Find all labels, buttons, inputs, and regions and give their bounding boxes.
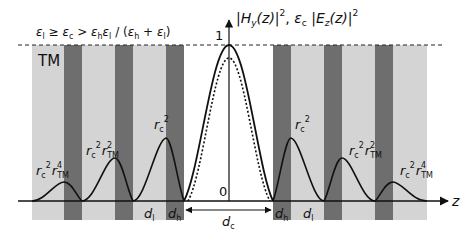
- label-dc: dc: [222, 214, 235, 231]
- right-cladding: [273, 45, 427, 220]
- polarization-label: TM: [37, 52, 60, 70]
- tick-one: 1: [215, 28, 223, 43]
- tick-zero: 0: [219, 184, 227, 199]
- light-layer: [342, 45, 375, 220]
- y-axis-label: |Hy(z)|2, εc |Ez(z)|2: [236, 8, 358, 28]
- peak-label-rc2-rtm4-right: rc2rTM4: [400, 161, 433, 180]
- light-layer: [82, 45, 115, 220]
- dark-layer: [64, 45, 82, 220]
- bragg-fiber-mode-diagram: εl ≥ εc > εhεl / (εh + εl) TM |Hy(z)|2, …: [0, 0, 475, 235]
- permittivity-condition: εl ≥ εc > εhεl / (εh + εl): [36, 25, 170, 41]
- dark-layer: [375, 45, 393, 220]
- light-layer: [291, 45, 324, 220]
- z-axis-label: z: [451, 193, 460, 209]
